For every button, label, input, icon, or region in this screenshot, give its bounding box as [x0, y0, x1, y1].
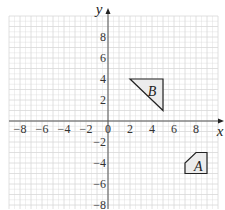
x-tick-label: 8: [193, 122, 199, 136]
y-axis-arrow-icon: [106, 8, 111, 14]
x-tick-label: −6: [36, 122, 49, 136]
x-tick-label: 4: [149, 122, 155, 136]
x-axis-label: x: [216, 123, 224, 139]
x-tick-label: −4: [58, 122, 71, 136]
coordinate-grid: AB xy−8−6−4−2024688642−2−4−6−8: [0, 0, 225, 210]
y-tick-label: −4: [93, 156, 106, 170]
x-tick-label: −8: [14, 122, 27, 136]
y-axis-label: y: [94, 1, 103, 17]
shape-label-B: B: [148, 84, 157, 99]
x-tick-label: −2: [80, 122, 93, 136]
y-tick-label: 4: [100, 72, 106, 86]
grid-lines: [9, 16, 218, 209]
y-tick-label: 8: [100, 30, 106, 44]
shape-label-A: A: [193, 159, 203, 174]
y-tick-label: 2: [100, 93, 106, 107]
x-tick-label: 2: [127, 122, 133, 136]
x-tick-label: 0: [105, 122, 111, 136]
y-tick-label: −6: [93, 177, 106, 191]
y-tick-label: −8: [93, 198, 106, 210]
x-tick-label: 6: [171, 122, 177, 136]
y-tick-label: 6: [100, 51, 106, 65]
y-tick-label: −2: [93, 135, 106, 149]
